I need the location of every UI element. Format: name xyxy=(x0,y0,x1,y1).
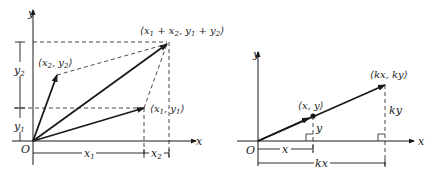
bracket-kx-label: kx xyxy=(315,157,329,170)
vector-v1 xyxy=(33,108,144,141)
point-v-dot xyxy=(310,113,315,118)
left-x-axis-label: x xyxy=(196,135,203,148)
drop-ky-label: ky xyxy=(389,104,403,117)
point-v2-label: ⟨x2, y2⟩ xyxy=(38,57,73,70)
right-dashed-guides xyxy=(313,85,385,166)
right-x-axis-label: x xyxy=(418,135,425,148)
point-sum-label: ⟨x1 + x2, y1 + y2⟩ xyxy=(140,25,224,38)
point-v-label: ⟨x, y⟩ xyxy=(298,100,324,111)
drop-y-label: y xyxy=(315,122,323,135)
vector-diagrams: x y O ⟨x1 + x2, y1 + y2⟩ ⟨x2, y2⟩ ⟨x1, y… xyxy=(0,0,436,179)
right-diagram: x y O ⟨x, y⟩ ⟨kx, ky⟩ y ky x xyxy=(237,48,425,170)
bracket-x-label: x xyxy=(282,143,289,156)
vector-v xyxy=(258,118,309,141)
left-y-axis-label: y xyxy=(27,7,35,20)
right-y-axis-label: y xyxy=(252,48,260,61)
left-x-brackets xyxy=(33,149,169,157)
point-kv-label: ⟨kx, ky⟩ xyxy=(370,69,408,80)
left-diagram: x y O ⟨x1 + x2, y1 + y2⟩ ⟨x2, y2⟩ ⟨x1, y… xyxy=(12,7,224,165)
left-origin-label: O xyxy=(21,143,30,156)
right-angle-marks xyxy=(306,134,385,141)
right-origin-label: O xyxy=(246,144,255,157)
point-v1-label: ⟨x1, y1⟩ xyxy=(150,103,185,116)
